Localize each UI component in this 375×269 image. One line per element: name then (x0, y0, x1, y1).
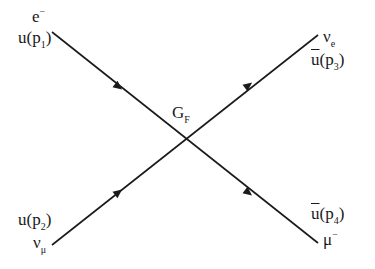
spinor-text: u(p (18, 28, 41, 47)
feynman-diagram (0, 0, 375, 269)
arrow-icon-electron-in (113, 81, 125, 93)
spinor-close: ) (339, 204, 345, 223)
particle-symbol: e (32, 7, 40, 26)
spinor-close: ) (46, 28, 52, 47)
label-electron: e− (32, 8, 45, 27)
antispinor-symbol: u (311, 50, 320, 69)
spinor-text: u(p (18, 210, 41, 229)
particle-symbol: μ (323, 230, 332, 249)
label-muon: μ− (323, 231, 338, 250)
spinor-index: 2 (41, 221, 46, 232)
coupling-subscript: F (184, 114, 190, 125)
particle-flavor: μ (41, 244, 46, 255)
spinor-index: 4 (334, 215, 339, 226)
particle-symbol: ν (323, 27, 331, 46)
spinor-index: 1 (41, 39, 46, 50)
coupling-symbol: G (172, 103, 184, 122)
spinor-close: ) (46, 210, 52, 229)
particle-flavor: e (331, 38, 335, 49)
spinor-text: (p (320, 50, 334, 69)
line-incoming-electron (52, 32, 318, 243)
label-spinor-p3: u(p3) (311, 51, 344, 70)
spinor-text: (p (320, 204, 334, 223)
label-electron-neutrino: νe (323, 28, 335, 47)
spinor-index: 3 (334, 61, 339, 72)
label-spinor-p2: u(p2) (18, 211, 51, 230)
label-spinor-p1: u(p1) (18, 29, 51, 48)
particle-charge: − (332, 229, 338, 240)
spinor-close: ) (339, 50, 345, 69)
antispinor-symbol: u (311, 204, 320, 223)
label-spinor-p4: u(p4) (311, 205, 344, 224)
label-muon-neutrino: νμ (33, 234, 46, 253)
particle-charge: − (40, 6, 46, 17)
vertex-coupling-label: GF (172, 104, 190, 123)
line-incoming-muon-neutrino (52, 35, 318, 245)
particle-symbol: ν (33, 233, 41, 252)
